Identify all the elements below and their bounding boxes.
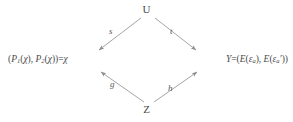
arrow-t (155, 18, 196, 50)
node-z: Z (0, 104, 293, 115)
node-z-label: Z (143, 103, 150, 115)
arrow-s (99, 18, 141, 50)
node-left-chi-pair: (P1(χ), P2(χ))=χ (8, 55, 68, 65)
right-paren-close: ) (285, 54, 288, 64)
edge-label-t: t (170, 27, 173, 36)
edge-label-h: h (168, 84, 173, 93)
arrow-g (101, 72, 144, 102)
node-u: U (0, 4, 293, 15)
edge-label-g: g (110, 80, 115, 89)
arrow-h (154, 72, 197, 102)
commutative-diagram: U Z (P1(χ), P2(χ))=χ Y=(E(εa), E(εa′)) s… (0, 0, 293, 122)
edge-label-s: s (109, 27, 113, 36)
left-result-chi: χ (64, 54, 68, 64)
node-right-y: Y=(E(εa), E(εa′)) (226, 55, 288, 65)
node-u-label: U (143, 3, 151, 15)
